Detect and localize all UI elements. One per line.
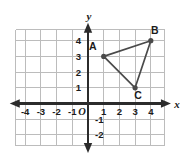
x-tick-label: 4 xyxy=(148,106,154,117)
vertex-point-a xyxy=(101,54,106,59)
triangle-shape xyxy=(104,41,151,88)
y-axis-label: y xyxy=(85,10,92,22)
x-axis-arrow-left xyxy=(10,99,20,107)
coordinate-plane-svg: -4-3-2-112344321-1-2Oxy ABC xyxy=(0,0,180,163)
coordinate-graph: -4-3-2-112344321-1-2Oxy ABC xyxy=(0,0,180,163)
y-tick-label: -1 xyxy=(95,114,104,125)
vertex-label-b: B xyxy=(151,24,159,36)
origin-label: O xyxy=(78,106,86,117)
y-tick-label: 2 xyxy=(76,67,81,78)
vertex-label-c: C xyxy=(134,89,142,101)
y-tick-label: 3 xyxy=(76,51,81,62)
y-axis-arrow-down xyxy=(84,143,92,153)
x-axis-arrow-right xyxy=(161,99,171,107)
x-tick-label: -2 xyxy=(52,106,61,117)
x-tick-label: -4 xyxy=(21,106,30,117)
x-tick-label: -1 xyxy=(68,106,77,117)
triangle-abc xyxy=(104,41,151,88)
x-tick-label: -3 xyxy=(37,106,46,117)
y-tick-label: 4 xyxy=(76,35,82,46)
vertex-point-b xyxy=(148,38,153,43)
vertex-label-a: A xyxy=(89,40,97,52)
y-tick-label: -2 xyxy=(95,129,104,140)
y-tick-label: 1 xyxy=(76,82,82,93)
y-axis-arrow-up xyxy=(84,23,92,33)
x-axis-label: x xyxy=(173,98,180,110)
x-tick-label: 3 xyxy=(132,106,137,117)
x-tick-label: 2 xyxy=(117,106,122,117)
vertex-markers: ABC xyxy=(89,24,159,101)
